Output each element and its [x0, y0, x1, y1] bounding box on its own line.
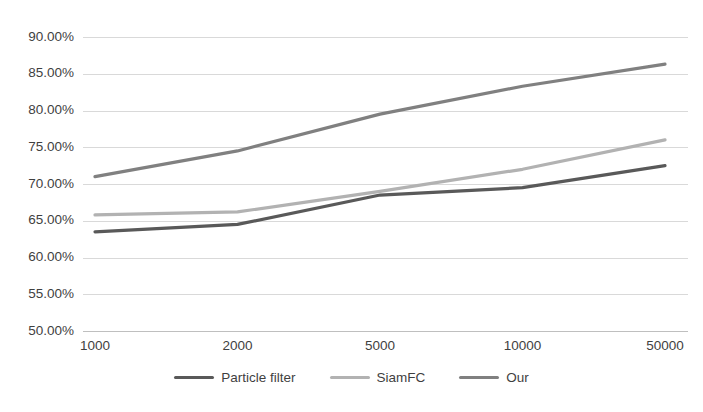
legend-item-siamfc[interactable]: SiamFC	[330, 371, 426, 385]
y-axis-tick-label: 50.00%	[28, 323, 74, 338]
legend-item-particle-filter[interactable]: Particle filter	[174, 371, 295, 385]
x-axis-tick-label: 5000	[365, 338, 395, 353]
y-axis-tick-label: 65.00%	[28, 212, 74, 227]
gridlines	[83, 38, 688, 332]
legend-swatch-icon	[459, 376, 499, 379]
y-axis-tick-label: 60.00%	[28, 249, 74, 264]
legend-item-our[interactable]: Our	[459, 371, 529, 385]
y-axis-tick-label: 75.00%	[28, 139, 74, 154]
y-axis-tick-labels: 90.00%85.00%80.00%75.00%70.00%65.00%60.0…	[28, 29, 74, 338]
legend-label: SiamFC	[377, 371, 426, 385]
legend-swatch-icon	[174, 376, 214, 379]
series-line-our	[95, 64, 665, 176]
line-chart: 90.00%85.00%80.00%75.00%70.00%65.00%60.0…	[0, 0, 703, 412]
series-line-particle-filter	[95, 166, 665, 232]
y-axis-tick-label: 90.00%	[28, 29, 74, 44]
x-axis-tick-labels: 1000200050001000050000	[80, 338, 684, 353]
y-axis-tick-label: 70.00%	[28, 176, 74, 191]
y-axis-tick-label: 55.00%	[28, 286, 74, 301]
chart-plot-area: 90.00%85.00%80.00%75.00%70.00%65.00%60.0…	[0, 0, 703, 412]
legend-label: Particle filter	[221, 371, 295, 385]
chart-legend: Particle filterSiamFCOur	[0, 371, 703, 385]
x-axis-tick-label: 50000	[646, 338, 684, 353]
y-axis-tick-label: 80.00%	[28, 102, 74, 117]
legend-label: Our	[506, 371, 529, 385]
legend-swatch-icon	[330, 376, 370, 379]
x-axis-tick-label: 10000	[504, 338, 542, 353]
x-axis-tick-label: 1000	[80, 338, 110, 353]
y-axis-tick-label: 85.00%	[28, 65, 74, 80]
x-axis-tick-label: 2000	[222, 338, 252, 353]
